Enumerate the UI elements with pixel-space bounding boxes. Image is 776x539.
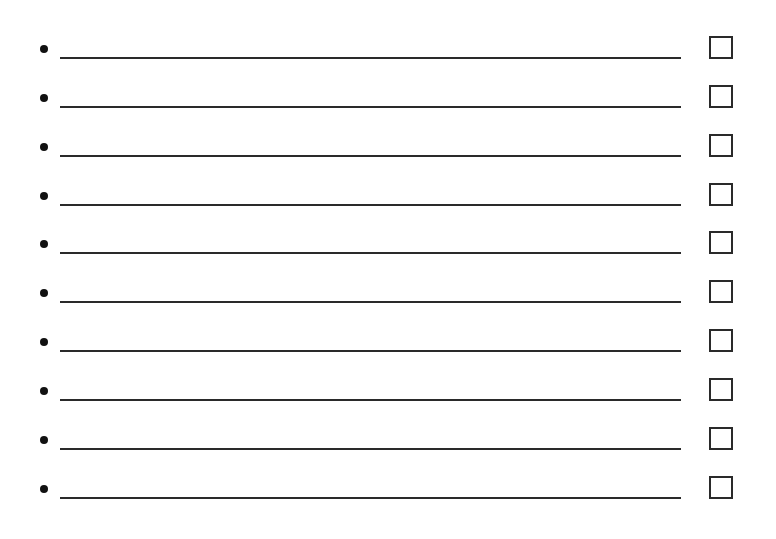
write-in-line[interactable]: [60, 448, 681, 450]
bullet-icon: [40, 289, 48, 297]
checkbox[interactable]: [709, 85, 733, 108]
write-in-line[interactable]: [60, 252, 681, 254]
checklist-item: [0, 282, 776, 312]
bullet-icon: [40, 485, 48, 493]
write-in-line[interactable]: [60, 106, 681, 108]
checkbox[interactable]: [709, 476, 733, 499]
checkbox[interactable]: [709, 427, 733, 450]
checkbox[interactable]: [709, 231, 733, 254]
checklist-item: [0, 429, 776, 459]
checklist-item: [0, 478, 776, 508]
bullet-icon: [40, 436, 48, 444]
checkbox[interactable]: [709, 280, 733, 303]
write-in-line[interactable]: [60, 204, 681, 206]
checkbox[interactable]: [709, 378, 733, 401]
bullet-icon: [40, 192, 48, 200]
checklist-item: [0, 331, 776, 361]
write-in-line[interactable]: [60, 497, 681, 499]
write-in-line[interactable]: [60, 155, 681, 157]
checklist-item: [0, 136, 776, 166]
bullet-icon: [40, 45, 48, 53]
write-in-line[interactable]: [60, 399, 681, 401]
bullet-icon: [40, 94, 48, 102]
checklist-item: [0, 38, 776, 68]
checklist-item: [0, 185, 776, 215]
write-in-line[interactable]: [60, 301, 681, 303]
bullet-icon: [40, 143, 48, 151]
bullet-icon: [40, 338, 48, 346]
checklist-item: [0, 380, 776, 410]
checklist-item: [0, 233, 776, 263]
checkbox[interactable]: [709, 329, 733, 352]
bullet-icon: [40, 240, 48, 248]
checkbox[interactable]: [709, 36, 733, 59]
bullet-icon: [40, 387, 48, 395]
write-in-line[interactable]: [60, 57, 681, 59]
write-in-line[interactable]: [60, 350, 681, 352]
checkbox[interactable]: [709, 134, 733, 157]
checkbox[interactable]: [709, 183, 733, 206]
checklist-item: [0, 87, 776, 117]
